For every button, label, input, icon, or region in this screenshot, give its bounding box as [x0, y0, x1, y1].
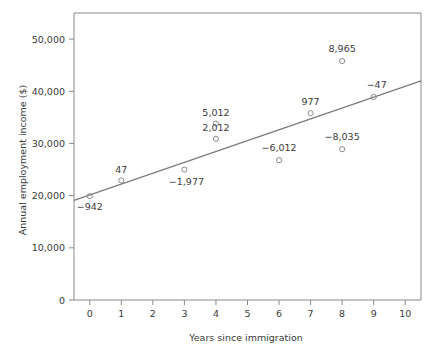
x-tick-label: 10: [399, 308, 411, 319]
residual-label: −1,977: [169, 176, 204, 187]
x-tick-label: 2: [150, 308, 156, 319]
y-tick-label: 20,000: [32, 190, 65, 201]
y-tick-label: 10,000: [32, 242, 65, 253]
y-axis-title: Annual employment income ($): [17, 85, 28, 235]
x-tick-label: 1: [118, 308, 124, 319]
residual-label: 8,965: [329, 43, 356, 54]
y-tick-label: 40,000: [32, 86, 65, 97]
residual-label: −8,035: [325, 131, 360, 142]
residual-label: 5,012: [202, 107, 229, 118]
x-tick-label: 4: [213, 308, 219, 319]
chart-canvas: 012345678910 010,00020,00030,00040,00050…: [0, 0, 432, 349]
residual-label: 47: [115, 164, 127, 175]
x-axis-title: Years since immigration: [188, 332, 303, 343]
scatter-plot-figure: 012345678910 010,00020,00030,00040,00050…: [0, 0, 432, 349]
y-tick-label: 30,000: [32, 138, 65, 149]
x-tick-label: 7: [308, 308, 314, 319]
y-tick-label: 0: [59, 295, 65, 306]
residual-label: 977: [302, 96, 320, 107]
residual-label: 2,012: [202, 122, 229, 133]
x-tick-label: 5: [244, 308, 250, 319]
x-tick-label: 9: [371, 308, 377, 319]
y-tick-label: 50,000: [32, 34, 65, 45]
x-tick-label: 0: [87, 308, 93, 319]
residual-label: −47: [367, 79, 387, 90]
x-tick-label: 6: [276, 308, 282, 319]
residual-label: −6,012: [261, 142, 296, 153]
x-tick-label: 8: [339, 308, 345, 319]
residual-label: −942: [77, 201, 103, 212]
x-tick-label: 3: [181, 308, 187, 319]
